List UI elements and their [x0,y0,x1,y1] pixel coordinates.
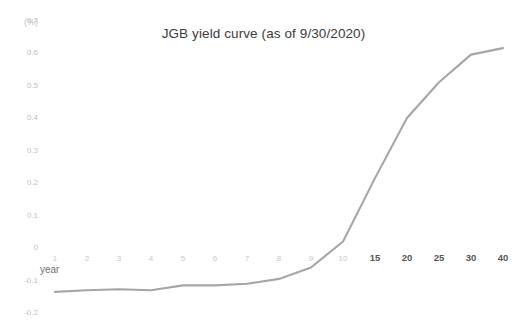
x-tick-label: 30 [456,253,486,263]
x-tick-label: 25 [424,253,454,263]
x-tick-label: 2 [72,254,102,264]
x-tick-label: 3 [104,254,134,264]
x-tick-label: 20 [392,253,422,263]
jgb-yield-curve-chart: JGB yield curve (as of 9/30/2020) (%) 0.… [0,0,527,330]
x-axis-tick-labels: 123456789101520253040 [0,0,527,330]
x-tick-label: 40 [488,253,518,263]
x-tick-label: 9 [296,254,326,264]
x-tick-label: 5 [168,254,198,264]
x-tick-label: 8 [264,254,294,264]
x-tick-label: 10 [328,254,358,264]
x-tick-label: 1 [40,254,70,264]
x-tick-label: 7 [232,254,262,264]
x-axis-title: year [40,264,59,275]
x-tick-label: 15 [360,253,390,263]
x-tick-label: 4 [136,254,166,264]
x-tick-label: 6 [200,254,230,264]
